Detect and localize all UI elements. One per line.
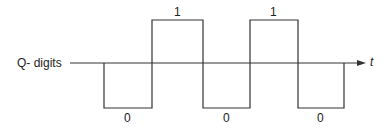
square-wave [104, 20, 344, 108]
bit-label: 1 [270, 6, 277, 18]
bit-label: 1 [174, 6, 181, 18]
bit-label: 0 [223, 112, 230, 124]
arrow-head-icon [357, 60, 366, 66]
bit-label: 0 [124, 112, 131, 124]
axis-label: Q- digits [17, 57, 62, 69]
time-label: t [370, 56, 373, 68]
bit-label: 0 [317, 112, 324, 124]
